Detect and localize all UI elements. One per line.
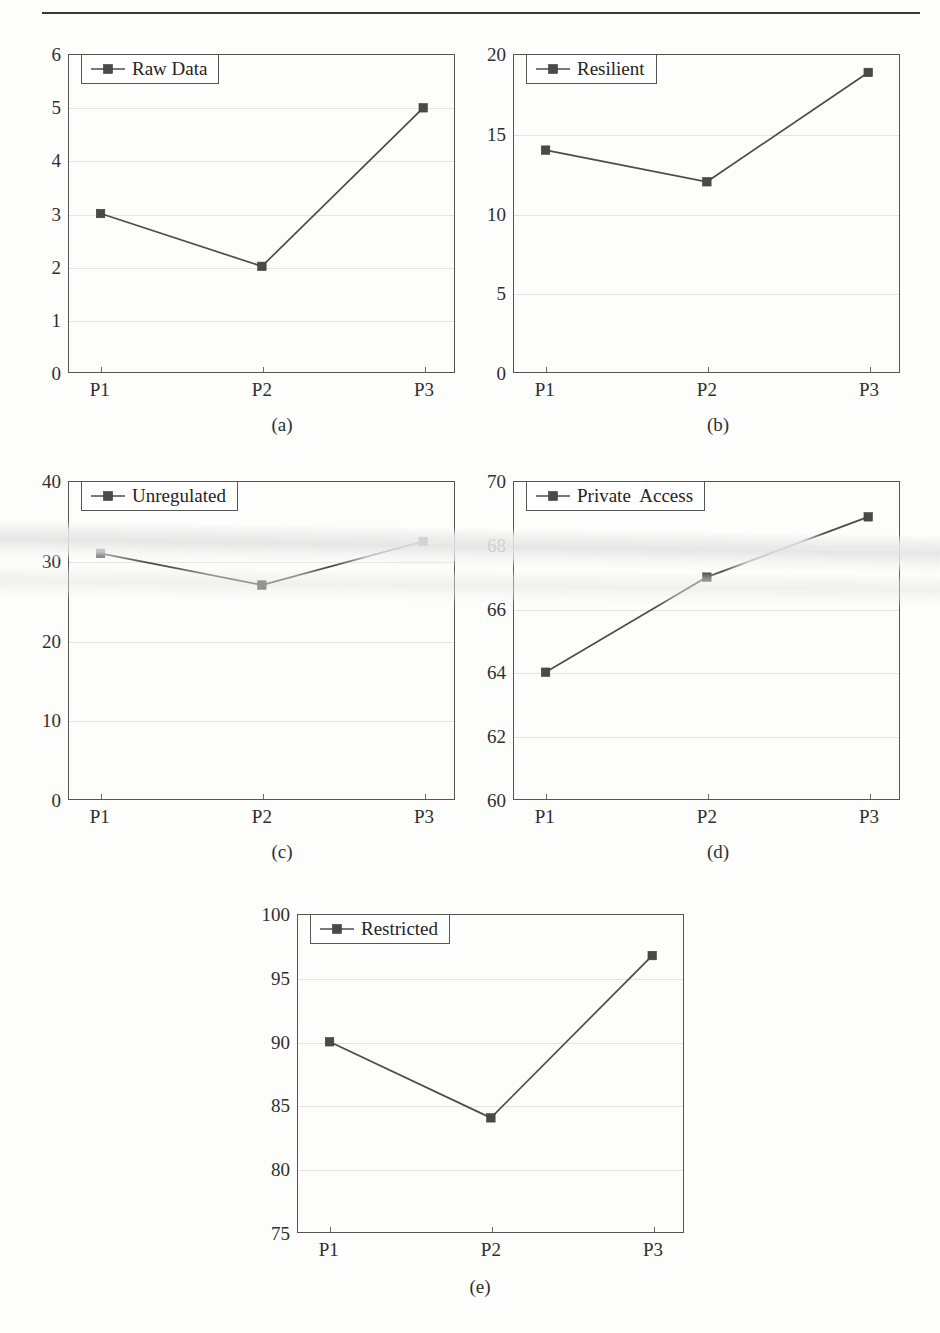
ytick-label-e-5: 100: [262, 905, 291, 924]
legend-b[interactable]: Resilient: [526, 54, 657, 84]
data-point-c-P2: [258, 581, 266, 589]
data-point-e-P3: [648, 951, 656, 959]
subplot-b: 05101520P1P2P3Resilient: [513, 54, 900, 373]
data-point-d-P2: [703, 573, 711, 581]
legend-d[interactable]: Private Access: [526, 481, 705, 511]
legend-label-d: Private Access: [577, 486, 693, 505]
ytick-label-e-1: 80: [271, 1160, 290, 1179]
data-point-d-P3: [864, 513, 872, 521]
series-layer-c: [69, 482, 454, 799]
legend-a[interactable]: Raw Data: [81, 54, 219, 84]
data-point-a-P2: [258, 262, 266, 270]
plot-area-d: [513, 481, 900, 800]
ytick-label-e-3: 90: [271, 1032, 290, 1051]
series-line-e-0: [330, 956, 653, 1118]
subplot-caption-a: (a): [271, 414, 292, 436]
plot-area-e: [297, 914, 684, 1233]
ytick-label-a-1: 1: [52, 310, 62, 329]
ytick-label-b-3: 15: [487, 124, 506, 143]
xtick-label-a-p2: P2: [252, 380, 272, 399]
xtick-label-b-p3: P3: [859, 380, 879, 399]
ytick-label-c-2: 20: [42, 631, 61, 650]
ytick-label-b-0: 0: [497, 364, 507, 383]
series-layer-b: [514, 55, 899, 372]
legend-label-e: Restricted: [361, 919, 438, 938]
ytick-label-d-5: 70: [487, 472, 506, 491]
xtick-label-b-p2: P2: [697, 380, 717, 399]
xtick-label-d-p1: P1: [535, 807, 555, 826]
series-line-b-0: [546, 72, 869, 181]
xtick-label-d-p2: P2: [697, 807, 717, 826]
ytick-label-c-0: 0: [52, 791, 62, 810]
data-point-e-P2: [487, 1114, 495, 1122]
legend-label-c: Unregulated: [132, 486, 226, 505]
subplot-caption-d: (d): [707, 841, 729, 863]
ytick-label-d-3: 66: [487, 599, 506, 618]
data-point-a-P3: [419, 104, 427, 112]
ytick-label-e-2: 85: [271, 1096, 290, 1115]
legend-label-a: Raw Data: [132, 59, 207, 78]
ytick-label-e-0: 75: [271, 1224, 290, 1243]
xtick-label-e-p2: P2: [481, 1240, 501, 1259]
data-point-b-P2: [703, 178, 711, 186]
legend-label-b: Resilient: [577, 59, 645, 78]
ytick-label-d-1: 62: [487, 727, 506, 746]
ytick-label-c-1: 10: [42, 711, 61, 730]
plot-area-c: [68, 481, 455, 800]
data-point-b-P3: [864, 68, 872, 76]
subplot-d: 606264666870P1P2P3Private Access: [513, 481, 900, 800]
subplot-a: 0123456P1P2P3Raw Data: [68, 54, 455, 373]
ytick-label-a-5: 5: [52, 98, 62, 117]
xtick-label-c-p3: P3: [414, 807, 434, 826]
ytick-label-e-4: 95: [271, 968, 290, 987]
ytick-label-b-4: 20: [487, 45, 506, 64]
legend-marker-icon: [91, 490, 125, 502]
ytick-label-d-2: 64: [487, 663, 506, 682]
xtick-label-a-p3: P3: [414, 380, 434, 399]
data-point-a-P1: [96, 209, 104, 217]
ytick-label-d-4: 68: [487, 535, 506, 554]
xtick-label-e-p3: P3: [643, 1240, 663, 1259]
ytick-label-c-3: 30: [42, 551, 61, 570]
xtick-label-c-p1: P1: [90, 807, 110, 826]
data-point-c-P3: [419, 537, 427, 545]
ytick-label-b-2: 10: [487, 204, 506, 223]
legend-marker-icon: [536, 63, 570, 75]
series-layer-d: [514, 482, 899, 799]
xtick-label-e-p1: P1: [319, 1240, 339, 1259]
ytick-label-a-2: 2: [52, 257, 62, 276]
subplot-e: 7580859095100P1P2P3Restricted: [297, 914, 684, 1233]
legend-marker-icon: [536, 490, 570, 502]
ytick-label-a-0: 0: [52, 364, 62, 383]
cut-off-header-text: [192, 6, 842, 14]
ytick-label-c-4: 40: [42, 472, 61, 491]
data-point-d-P1: [541, 668, 549, 676]
subplot-c: 010203040P1P2P3Unregulated: [68, 481, 455, 800]
legend-e[interactable]: Restricted: [310, 914, 450, 944]
data-point-c-P1: [96, 549, 104, 557]
subplot-caption-b: (b): [707, 414, 729, 436]
xtick-label-c-p2: P2: [252, 807, 272, 826]
series-line-a-0: [101, 108, 424, 267]
plot-area-a: [68, 54, 455, 373]
page-top-rule: [42, 12, 920, 14]
series-layer-a: [69, 55, 454, 372]
legend-c[interactable]: Unregulated: [81, 481, 238, 511]
xtick-label-b-p1: P1: [535, 380, 555, 399]
series-layer-e: [298, 915, 683, 1232]
series-line-d-0: [546, 517, 869, 672]
legend-marker-icon: [91, 63, 125, 75]
xtick-label-a-p1: P1: [90, 380, 110, 399]
ytick-label-d-0: 60: [487, 791, 506, 810]
legend-marker-icon: [320, 923, 354, 935]
ytick-label-a-6: 6: [52, 45, 62, 64]
ytick-label-b-1: 5: [497, 284, 507, 303]
ytick-label-a-3: 3: [52, 204, 62, 223]
xtick-label-d-p3: P3: [859, 807, 879, 826]
data-point-e-P1: [325, 1038, 333, 1046]
subplot-caption-e: (e): [469, 1276, 490, 1298]
data-point-b-P1: [541, 146, 549, 154]
series-line-c-0: [101, 541, 424, 585]
subplot-caption-c: (c): [271, 841, 292, 863]
plot-area-b: [513, 54, 900, 373]
